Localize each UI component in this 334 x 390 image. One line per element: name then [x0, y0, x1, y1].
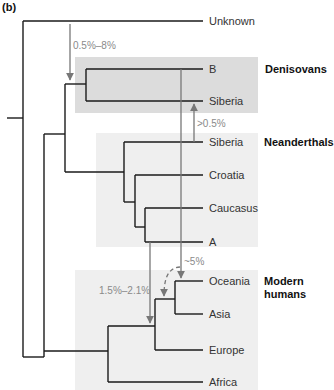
panel-label: (b): [2, 1, 16, 13]
pct-unknown-flow: 0.5%–8%: [73, 40, 116, 51]
leaf-neanderthal-croatia: Croatia: [209, 169, 244, 181]
pct-denisovan-oceania-flow: ~5%: [184, 256, 204, 267]
leaf-unknown: Unknown: [209, 15, 255, 27]
leaf-europe: Europe: [209, 344, 244, 356]
pct-neanderthal-nonafrican-flow: 1.5%–2.1%: [99, 285, 150, 296]
leaf-africa: Africa: [209, 376, 237, 388]
pct-neanderthal-denisovan-flow: >0.5%: [197, 118, 226, 129]
leaf-asia: Asia: [209, 308, 230, 320]
group-denisovans: Denisovans: [265, 63, 327, 76]
leaf-neanderthal-a: A: [209, 236, 216, 248]
leaf-neanderthal-caucasus: Caucasus: [209, 202, 258, 214]
group-modern-humans: Modern humans: [264, 275, 306, 301]
group-neanderthals: Neanderthals: [264, 136, 334, 149]
group-modern-line2: humans: [264, 288, 306, 301]
group-modern-line1: Modern: [264, 275, 306, 288]
leaf-denisovan-siberia: Siberia: [209, 95, 243, 107]
neanderthal-box: [96, 133, 258, 247]
leaf-neanderthal-siberia: Siberia: [209, 136, 243, 148]
leaf-denisovan-b: B: [209, 63, 216, 75]
leaf-oceania: Oceania: [209, 275, 250, 287]
